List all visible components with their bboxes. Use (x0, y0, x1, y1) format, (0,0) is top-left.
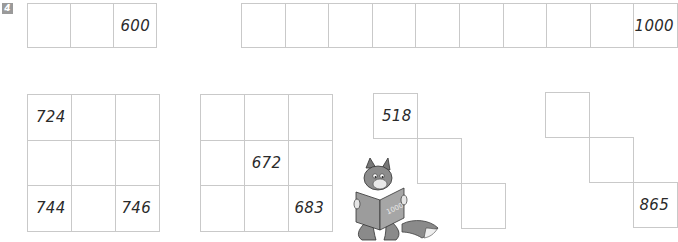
number-grid-a: 724 744 746 (27, 94, 160, 232)
grid-cell[interactable] (289, 141, 333, 187)
grid-cell[interactable] (245, 95, 289, 141)
cell-value: 683 (294, 199, 324, 217)
number-cell[interactable] (372, 3, 417, 48)
cell-value: 1000 (635, 17, 674, 35)
cell-value: 865 (639, 196, 669, 214)
grid-cell[interactable]: 746 (116, 186, 160, 232)
grid-cell[interactable]: 683 (289, 186, 333, 232)
grid-cell[interactable] (289, 95, 333, 141)
grid-cell[interactable] (28, 141, 72, 187)
exercise-number-badge: 4 (2, 3, 13, 14)
stair-cell[interactable]: 865 (633, 182, 678, 228)
grid-cell[interactable] (245, 186, 289, 232)
cell-value: 672 (252, 154, 282, 172)
grid-cell[interactable]: 672 (245, 141, 289, 187)
grid-cell[interactable] (72, 141, 116, 187)
number-cell[interactable]: 1000 (633, 3, 678, 48)
number-row-short: 600 (28, 3, 157, 48)
stair-cell[interactable]: 518 (373, 93, 418, 139)
number-cell[interactable] (415, 3, 460, 48)
stair-cell[interactable] (589, 137, 634, 183)
number-row-long: 1000 (242, 3, 678, 48)
fox-reading-book-icon: 1000 (352, 158, 442, 242)
number-grid-b: 672 683 (200, 94, 333, 232)
number-cell[interactable] (546, 3, 591, 48)
cell-value: 746 (121, 199, 151, 217)
number-cell[interactable] (459, 3, 504, 48)
number-cell[interactable] (328, 3, 373, 48)
cell-value: 724 (36, 108, 66, 126)
number-cell[interactable] (590, 3, 635, 48)
grid-cell[interactable]: 744 (28, 186, 72, 232)
cell-value: 600 (120, 17, 150, 35)
number-cell[interactable] (70, 3, 114, 48)
grid-cell[interactable]: 724 (28, 95, 72, 141)
grid-cell[interactable] (72, 186, 116, 232)
cell-value: 518 (382, 107, 412, 125)
grid-cell[interactable] (116, 141, 160, 187)
grid-cell[interactable] (116, 95, 160, 141)
grid-cell[interactable] (72, 95, 116, 141)
cell-value: 744 (36, 199, 66, 217)
number-cell[interactable] (503, 3, 548, 48)
stair-cell[interactable] (545, 92, 590, 138)
number-cell[interactable] (27, 3, 71, 48)
number-cell[interactable] (285, 3, 330, 48)
grid-cell[interactable] (201, 186, 245, 232)
stair-cell[interactable] (461, 183, 506, 229)
number-cell[interactable] (241, 3, 286, 48)
grid-cell[interactable] (201, 141, 245, 187)
grid-cell[interactable] (201, 95, 245, 141)
number-cell[interactable]: 600 (113, 3, 157, 48)
